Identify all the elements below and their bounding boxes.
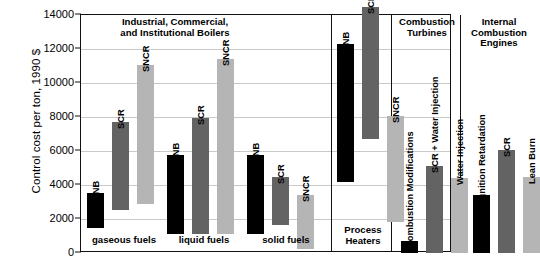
group-footer: liquid fuels (161, 235, 247, 246)
y-tick-mark (75, 218, 81, 219)
bar-label: Combustion Modifications (405, 131, 415, 248)
bar-label: SNCR (141, 45, 151, 71)
y-tick-label: 0 (68, 246, 74, 258)
y-tick-mark (75, 116, 81, 117)
y-tick-label: 8000 (50, 110, 74, 122)
gridline (81, 49, 450, 50)
bar-lean-burn (523, 177, 540, 254)
bar-label: LNB (251, 143, 261, 162)
bar-label: SCR (116, 109, 126, 129)
bar-label: Ignition Retardation (477, 114, 487, 202)
bar-label: SNCR (301, 176, 311, 202)
bar-scr (498, 150, 515, 253)
group-header: Industrial, Commercial, and Institutiona… (85, 17, 265, 38)
group-header: Combustion Turbines (394, 17, 460, 38)
bar-lnb (337, 44, 354, 182)
bar-label: SNCR (221, 40, 231, 66)
bar-label: SCR (196, 106, 206, 126)
bar-sncr (217, 59, 234, 234)
bar-label: SCR (502, 137, 512, 157)
y-tick-mark (75, 184, 81, 185)
group-footer: gaseous fuels (81, 235, 167, 246)
bar-ignition-retardation (473, 195, 490, 253)
y-tick-mark (75, 14, 81, 15)
group-footer: solid fuels (243, 235, 329, 246)
bar-scr (192, 118, 209, 234)
bar-scr (112, 122, 129, 210)
bar-water-injection (451, 178, 468, 253)
y-tick-mark (75, 150, 81, 151)
y-tick-label: 12000 (43, 42, 74, 54)
y-tick-label: 6000 (50, 144, 74, 156)
bar-label: Water Injection (455, 118, 465, 184)
group-header: Internal Combustion Engines (462, 17, 536, 49)
plot-area: LNBSCRSNCRLNBSCRSNCRLNBSCRSNCRLNBSCRSNCR… (80, 14, 451, 252)
bar-scr-water-injection (426, 166, 443, 253)
y-tick-mark (75, 48, 81, 49)
y-axis-ticks: 02000400060008000100001200014000 (0, 0, 74, 276)
bar-label: LNB (171, 143, 181, 162)
y-tick-label: 14000 (43, 8, 74, 20)
bar-lnb (247, 155, 264, 235)
bar-label: SCR (366, 0, 376, 14)
y-tick-label: 2000 (50, 212, 74, 224)
bar-label: LNB (341, 32, 351, 51)
bar-label: SCR (276, 164, 286, 184)
group-footer: Process Heaters (333, 225, 393, 246)
bar-label: SNCR (391, 97, 401, 123)
group-separator (331, 15, 332, 251)
y-tick-label: 10000 (43, 76, 74, 88)
bar-scr (362, 7, 379, 139)
y-tick-label: 4000 (50, 178, 74, 190)
bar-label: SCR + Water Injection (430, 76, 440, 173)
bar-sncr (137, 65, 154, 205)
y-tick-mark (75, 252, 81, 253)
bar-label: Lean Burn (527, 138, 537, 184)
bar-label: LNB (91, 181, 101, 200)
bar-sncr (387, 116, 404, 221)
bar-lnb (167, 155, 184, 235)
y-tick-mark (75, 82, 81, 83)
